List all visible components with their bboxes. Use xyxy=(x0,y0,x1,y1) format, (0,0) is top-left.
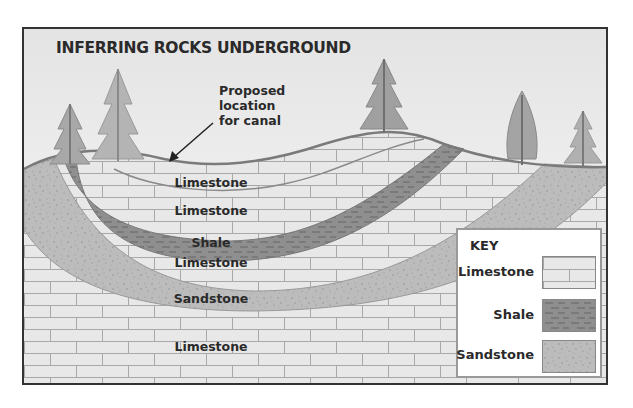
layer-label-sandstone: Sandstone xyxy=(174,291,249,306)
key-label-limestone: Limestone xyxy=(458,264,534,279)
limestone-swatch xyxy=(542,256,596,289)
sandstone-swatch xyxy=(542,340,596,373)
canal-callout: Proposed location for canal xyxy=(219,83,285,128)
layer-label-limestone-upper: Limestone xyxy=(174,203,247,218)
layer-label-shale: Shale xyxy=(191,235,230,250)
legend-key: KEY Limestone Shale Sandstone xyxy=(456,228,602,378)
key-label-sandstone: Sandstone xyxy=(456,347,534,362)
callout-line: for canal xyxy=(219,113,285,128)
key-label-shale: Shale xyxy=(493,307,534,322)
layer-label-limestone-top: Limestone xyxy=(174,175,247,190)
layer-label-limestone-bottom: Limestone xyxy=(174,339,247,354)
callout-line: location xyxy=(219,98,285,113)
diagram-frame: INFERRING ROCKS UNDERGROUND Proposed loc… xyxy=(22,27,608,385)
diagram-title: INFERRING ROCKS UNDERGROUND xyxy=(56,39,351,57)
callout-line: Proposed xyxy=(219,83,285,98)
shale-swatch xyxy=(542,299,596,332)
layer-label-limestone-lower: Limestone xyxy=(174,255,247,270)
key-title: KEY xyxy=(470,238,498,253)
